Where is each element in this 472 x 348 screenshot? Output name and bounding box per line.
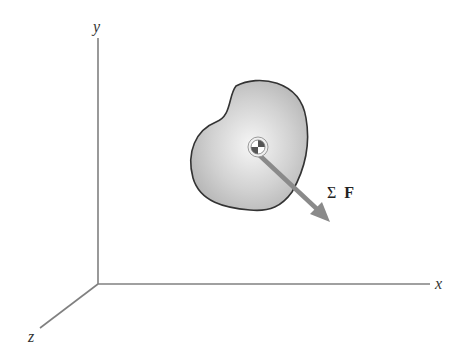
force-symbol: F — [344, 184, 354, 201]
y-axis-label: y — [91, 18, 101, 36]
z-axis — [40, 284, 98, 328]
x-axis-label: x — [434, 275, 442, 292]
center-of-mass-icon — [248, 137, 268, 157]
sigma-symbol: Σ — [327, 184, 336, 201]
z-axis-label: z — [27, 328, 35, 345]
force-label: Σ F — [327, 184, 354, 201]
free-body-diagram: y x z Σ F — [0, 0, 472, 348]
